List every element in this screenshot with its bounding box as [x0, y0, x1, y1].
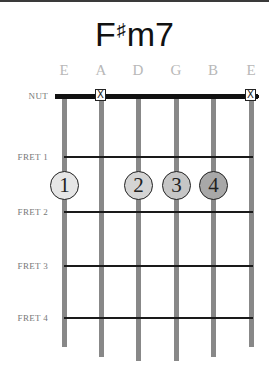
- fret-line-3: [64, 265, 253, 267]
- mute-x-icon-high-e-string: X: [245, 89, 256, 101]
- mute-x-icon-a-string: X: [95, 89, 106, 101]
- string-label-g: G: [166, 62, 186, 79]
- finger-dot-1: 1: [50, 171, 79, 200]
- fret-2-label: FRET 2: [4, 207, 48, 217]
- nut-label: NUT: [4, 91, 48, 101]
- chord-quality: m7: [127, 15, 174, 53]
- string-label-low-e: E: [54, 62, 74, 79]
- fret-line-4: [64, 317, 253, 319]
- string-high-e: [249, 98, 254, 347]
- fret-line-1: [64, 156, 253, 158]
- string-d: [136, 98, 141, 361]
- chord-root: F: [95, 15, 116, 53]
- fret-4-label: FRET 4: [4, 313, 48, 323]
- nut-bar: [55, 94, 258, 99]
- finger-dot-4: 4: [199, 171, 228, 200]
- top-border: [0, 0, 269, 2]
- string-label-a: A: [91, 62, 111, 79]
- finger-dot-2: 2: [124, 171, 153, 200]
- string-low-e: [62, 98, 67, 347]
- string-label-d: D: [128, 62, 148, 79]
- sharp-accidental: ♯: [117, 20, 126, 40]
- string-g: [174, 98, 179, 361]
- fret-3-label: FRET 3: [4, 261, 48, 271]
- string-label-b: B: [203, 62, 223, 79]
- fret-1-label: FRET 1: [4, 152, 48, 162]
- finger-dot-3: 3: [162, 171, 191, 200]
- chord-title: F♯m7: [0, 14, 269, 54]
- string-label-high-e: E: [241, 62, 261, 79]
- fret-line-2: [64, 211, 253, 213]
